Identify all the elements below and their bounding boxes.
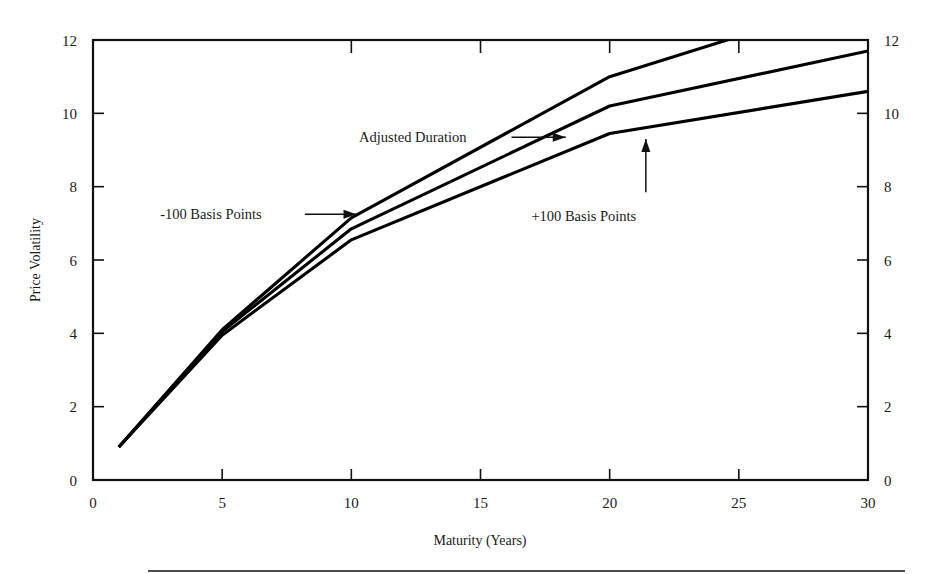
y-tick-label-left: 10 [62, 106, 77, 122]
price-volatility-chart: 024681012 024681012 051015202530 Adjuste… [0, 0, 932, 574]
y-axis-left-ticks [93, 113, 104, 406]
x-tick-label: 15 [473, 495, 488, 511]
annotation-label: +100 Basis Points [531, 208, 636, 224]
y-tick-label-left: 6 [70, 253, 78, 269]
annotation-label: -100 Basis Points [160, 206, 262, 222]
annotation-arrow-head [553, 133, 566, 142]
y-tick-label-right: 0 [884, 473, 892, 489]
y-tick-label-left: 2 [70, 399, 78, 415]
x-tick-label: 5 [218, 495, 226, 511]
x-axis-ticks [222, 469, 739, 480]
x-tick-label: 10 [344, 495, 359, 511]
x-tick-label: 20 [602, 495, 617, 511]
x-axis-top-ticks [351, 40, 738, 53]
y-tick-label-right: 4 [884, 326, 892, 342]
annotation-label: Adjusted Duration [359, 129, 467, 145]
y-tick-label-left: 4 [70, 326, 78, 342]
series-line [119, 0, 868, 447]
y-tick-label-left: 12 [62, 33, 77, 49]
data-series-group [119, 0, 868, 447]
y-tick-label-right: 12 [884, 33, 899, 49]
annotation-group: Adjusted Duration-100 Basis Points+100 B… [160, 129, 650, 224]
x-axis-title: Maturity (Years) [433, 533, 526, 549]
y-tick-label-left: 0 [70, 473, 78, 489]
x-axis-tick-labels: 051015202530 [89, 495, 875, 511]
x-tick-label: 30 [861, 495, 876, 511]
y-axis-left-tick-labels: 024681012 [62, 33, 78, 489]
annotation-arrow-head [641, 139, 650, 152]
y-tick-label-right: 2 [884, 399, 892, 415]
y-tick-label-right: 6 [884, 253, 892, 269]
plot-frame [93, 40, 868, 480]
y-tick-label-left: 8 [70, 179, 78, 195]
x-tick-label: 0 [89, 495, 97, 511]
y-axis-title: Price Volatility [28, 218, 43, 302]
y-axis-right-tick-labels: 024681012 [884, 33, 899, 489]
y-axis-right-ticks [857, 113, 868, 406]
figure-container: 024681012 024681012 051015202530 Adjuste… [0, 0, 932, 574]
y-tick-label-right: 10 [884, 106, 899, 122]
y-tick-label-right: 8 [884, 179, 892, 195]
x-tick-label: 25 [731, 495, 746, 511]
series-line [119, 91, 868, 447]
